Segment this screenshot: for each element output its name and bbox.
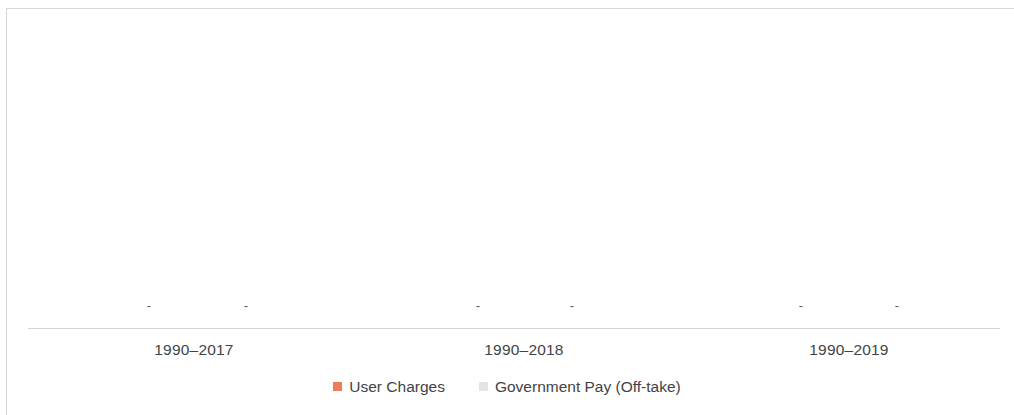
data-label-zero: - — [789, 297, 813, 315]
x-axis-tick-label: 1990–2019 — [739, 339, 959, 361]
figure-frame-top-border — [6, 8, 1014, 9]
data-label-zero: - — [560, 297, 584, 315]
legend-label: Government Pay (Off-take) — [495, 376, 681, 397]
x-axis-tick-label: 1990–2018 — [414, 339, 634, 361]
data-label-zero: - — [885, 297, 909, 315]
legend-swatch-icon — [333, 382, 342, 391]
legend-item-government-pay[interactable]: Government Pay (Off-take) — [479, 376, 681, 397]
legend-label: User Charges — [349, 376, 445, 397]
legend-swatch-icon — [479, 382, 488, 391]
data-label-zero: - — [137, 297, 161, 315]
figure-frame-left-border — [6, 8, 7, 415]
chart-legend: User Charges Government Pay (Off-take) — [0, 376, 1014, 397]
data-label-zero: - — [466, 297, 490, 315]
plot-area — [28, 14, 1000, 328]
x-axis-tick-label: 1990–2017 — [84, 339, 304, 361]
data-label-zero: - — [234, 297, 258, 315]
legend-item-user-charges[interactable]: User Charges — [333, 376, 445, 397]
category-axis-line — [28, 328, 1000, 329]
bar-chart-figure: - - - - - - 1990–2017 1990–2018 1990–201… — [0, 0, 1014, 415]
